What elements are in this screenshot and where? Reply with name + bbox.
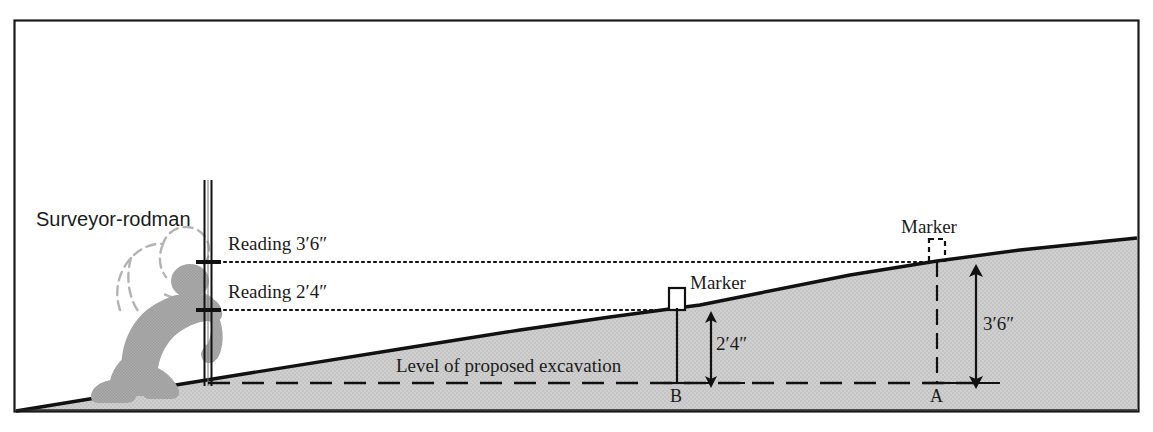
surveying-diagram: Surveyor-rodman Reading 3′6″ Reading 2′4…: [0, 0, 1153, 432]
label-marker-b: Marker: [690, 272, 746, 294]
label-marker-a: Marker: [901, 216, 957, 238]
label-reading-lower: Reading 2′4″: [228, 281, 327, 303]
label-reading-upper: Reading 3′6″: [228, 233, 327, 255]
label-excavation-level: Level of proposed excavation: [396, 355, 621, 377]
label-surveyor-rodman: Surveyor-rodman: [36, 208, 191, 231]
label-point-b: B: [670, 386, 682, 407]
label-point-a: A: [930, 386, 943, 407]
label-dimension-a: 3′6″: [983, 313, 1014, 335]
label-dimension-b: 2′4″: [716, 333, 747, 355]
